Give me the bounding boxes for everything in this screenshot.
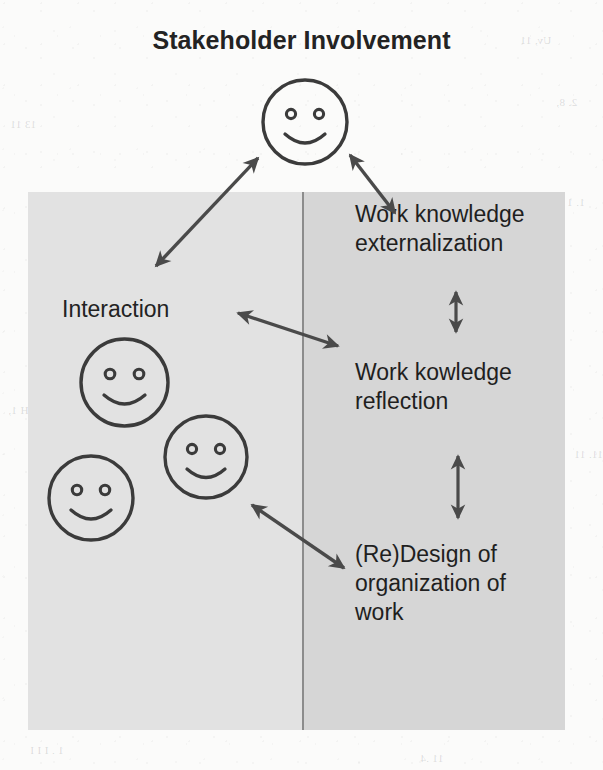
step-line: reflection bbox=[355, 387, 555, 416]
scan-artifact: 11. 11 bbox=[574, 448, 603, 460]
stakeholder-smiley-face-icon bbox=[259, 76, 351, 168]
step-line: Work knowledge bbox=[355, 200, 560, 229]
scan-artifact: 2. 8, bbox=[556, 96, 577, 108]
step-line: organization of bbox=[355, 569, 550, 598]
figure-canvas: Uv, 11 2. 8, 13 11 1. 1 A H 1, 11. 11 1 … bbox=[0, 0, 603, 770]
scan-artifact: H 1, bbox=[8, 404, 29, 416]
scan-artifact: 1 . I I I bbox=[30, 744, 64, 756]
step-line: Work kowledge bbox=[355, 358, 555, 387]
work-knowledge-panel bbox=[303, 192, 565, 730]
scan-artifact: 11 .4 bbox=[420, 752, 444, 764]
smiley-face-1-icon bbox=[77, 335, 172, 430]
step-redesign-of-organization-of-work: (Re)Design of organization of work bbox=[355, 540, 550, 627]
step-line: externalization bbox=[355, 229, 560, 258]
smiley-face-3-icon bbox=[45, 452, 137, 544]
step-work-knowledge-externalization: Work knowledge externalization bbox=[355, 200, 560, 258]
panel-divider bbox=[302, 192, 304, 730]
scan-artifact: 13 11 bbox=[10, 118, 36, 130]
interaction-label: Interaction bbox=[62, 296, 169, 323]
page-title: Stakeholder Involvement bbox=[0, 26, 603, 55]
step-work-knowledge-reflection: Work kowledge reflection bbox=[355, 358, 555, 416]
smiley-face-2-icon bbox=[161, 412, 251, 502]
step-line: work bbox=[355, 598, 550, 627]
step-line: (Re)Design of bbox=[355, 540, 550, 569]
